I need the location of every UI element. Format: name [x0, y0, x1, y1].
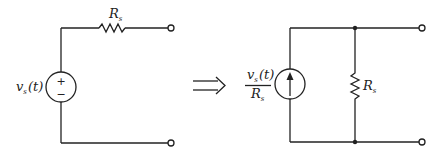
parallel-resistor-icon — [351, 28, 359, 142]
circuit-diagram: + − vs(t) Rs Rs vs(t) Rs — [0, 0, 447, 157]
terminal-bottom-left — [168, 140, 174, 146]
terminal-bottom-right — [419, 139, 425, 145]
left-circuit: + − vs(t) Rs — [16, 6, 174, 146]
terminal-top-left — [168, 25, 174, 31]
terminal-top-right — [419, 25, 425, 31]
right-circuit: Rs vs(t) Rs — [245, 25, 425, 145]
plus-sign: + — [56, 75, 65, 88]
current-source-denominator: Rs — [250, 86, 265, 103]
series-resistor-icon — [99, 24, 125, 32]
series-resistor-label: Rs — [108, 6, 123, 23]
current-arrow-up-icon — [287, 72, 294, 80]
parallel-resistor-label: Rs — [362, 78, 377, 95]
voltage-source-label: vs(t) — [16, 79, 43, 96]
current-source-numerator: vs(t) — [247, 67, 274, 84]
minus-sign: − — [56, 88, 65, 101]
transform-arrow-icon — [193, 77, 225, 94]
